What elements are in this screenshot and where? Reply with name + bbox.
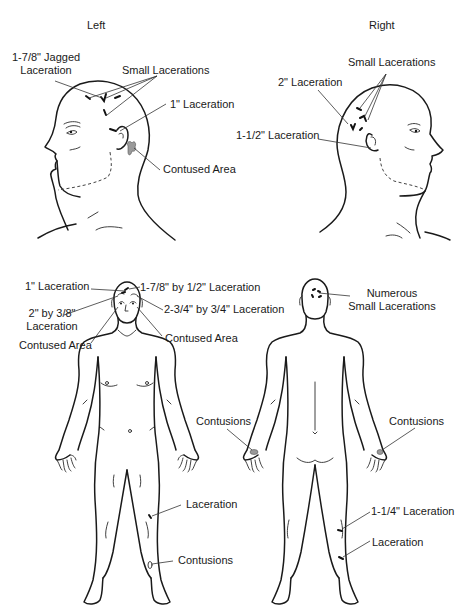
left-view-title: Left [87,19,105,32]
label-back-numerous-lacerations: Numerous Small Lacerations [346,287,438,313]
label-back-numerous-line1: Numerous [346,287,438,300]
label-front-2in-line2: Laceration [20,320,84,333]
label-back-left-hand-contusions: Contusions [196,415,251,428]
left-head-wounds [86,94,136,155]
label-front-thigh-laceration: Laceration [186,498,237,511]
label-right-small-lacerations: Small Lacerations [348,56,435,69]
label-back-ankle-laceration: Laceration [372,536,423,549]
label-left-contused-area: Contused Area [163,163,236,176]
left-head-profile [38,81,175,240]
label-left-1in-laceration: 1" Laceration [170,98,234,111]
label-right-1-1-2in-laceration: 1-1/2" Laceration [236,129,319,142]
label-front-7-8-laceration: 1-7/8" by 1/2" Laceration [140,281,260,294]
right-head-wounds [351,108,366,130]
label-back-calf-laceration: 1-1/4" Laceration [371,505,454,518]
right-head-profile [320,85,450,240]
label-left-small-lacerations: Small Lacerations [122,64,209,77]
label-front-1in-laceration: 1" Laceration [25,280,89,293]
label-front-contused-area-left: Contused Area [19,339,92,352]
label-front-2-3-4-laceration: 2-3/4" by 3/4" Laceration [164,303,284,316]
label-back-right-hand-contusions: Contusions [389,415,444,428]
label-back-numerous-line2: Small Lacerations [346,300,438,313]
back-body-wounds [250,289,383,559]
label-front-contused-area-right: Contused Area [165,332,238,345]
label-jagged-laceration: 1-7/8" Jagged Laceration [12,51,80,77]
label-front-2in-line1: 2" by 3/8" [20,307,84,320]
label-front-2in-by-3-8: 2" by 3/8" Laceration [20,307,84,333]
left-head-leaders [55,76,166,170]
back-body-outline [244,279,387,604]
label-front-shin-contusions: Contusions [178,554,233,567]
right-view-title: Right [369,19,395,32]
label-jagged-line2: Laceration [12,64,80,77]
label-jagged-line1: 1-7/8" Jagged [12,51,80,64]
label-right-2in-laceration: 2" Laceration [278,76,342,89]
